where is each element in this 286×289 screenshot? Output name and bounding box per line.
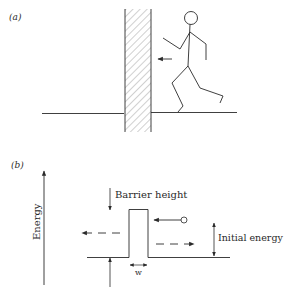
head-icon [185, 12, 198, 25]
stick-figure [163, 12, 223, 113]
panel-b-label: (b) [11, 160, 24, 170]
barrier-height-label: Barrier height [115, 189, 187, 200]
width-label: w [135, 268, 142, 277]
energy-axis-label: Energy [31, 203, 42, 240]
hatched-wall [125, 9, 151, 132]
panel-a: (a) [9, 9, 237, 132]
potential-barrier [87, 210, 230, 258]
particle-icon [181, 217, 187, 223]
panel-a-label: (a) [9, 12, 22, 22]
figure-canvas: (a) (b) Energy [0, 0, 286, 289]
panel-b: (b) Energy Barrier height Initial energy… [11, 160, 283, 287]
initial-energy-label: Initial energy [218, 232, 283, 243]
